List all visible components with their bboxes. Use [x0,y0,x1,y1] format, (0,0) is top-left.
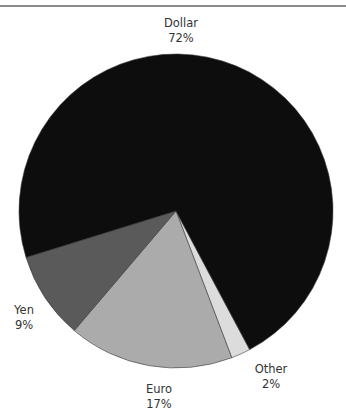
label-dollar-percent: 72% [164,31,198,46]
label-other: Other 2% [255,362,288,392]
label-other-percent: 2% [255,377,288,392]
label-euro: Euro 17% [146,382,172,412]
label-dollar: Dollar 72% [164,16,198,46]
label-dollar-name: Dollar [164,16,198,31]
label-other-name: Other [255,362,288,377]
label-yen-percent: 9% [14,318,34,333]
label-euro-name: Euro [146,382,172,397]
label-euro-percent: 17% [146,397,172,412]
label-yen-name: Yen [14,303,34,318]
pie-chart [0,0,346,418]
label-yen: Yen 9% [14,303,34,333]
